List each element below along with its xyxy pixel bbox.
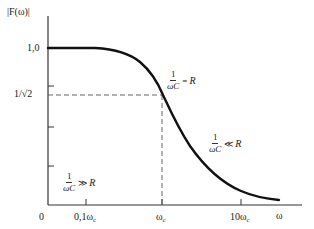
rhs: R	[89, 177, 95, 188]
x-tick-sub: c	[93, 216, 96, 224]
x-tick-label-wc: ωc	[156, 212, 166, 224]
x-tick-text: 0,1ω	[74, 211, 93, 222]
y-axis-label: |F(ω)|	[7, 7, 30, 17]
fraction: 1 ωC	[167, 70, 179, 91]
relation-symbol: =	[182, 76, 187, 86]
x-tick-label-0.1wc: 0,1ωc	[74, 212, 96, 224]
fraction-denominator: ωC	[167, 81, 179, 91]
y-tick-label-1: 1,0	[27, 43, 40, 53]
x-tick-sub: c	[163, 216, 166, 224]
relation-symbol: ≫	[78, 178, 87, 188]
x-tick-text: 10ω	[230, 211, 247, 222]
fraction-denominator: ωC	[63, 183, 75, 193]
rhs: R	[235, 138, 241, 149]
y-axis-label-text: |F(ω)|	[7, 6, 30, 17]
x-tick-label-10wc: 10ωc	[230, 212, 250, 224]
fraction-numerator: 1	[66, 172, 73, 183]
fraction-denominator: ωC	[209, 144, 221, 154]
rhs: R	[189, 75, 195, 86]
relation-symbol: ≪	[224, 139, 233, 149]
fraction: 1 ωC	[209, 133, 221, 154]
annotation-corner: 1 ωC = R	[167, 70, 196, 91]
annotation-low-frequency: 1 ωC ≫ R	[63, 172, 95, 193]
x-tick-label-0: 0	[39, 212, 44, 222]
x-tick-sub: c	[247, 216, 250, 224]
x-axis-label: ω	[276, 211, 283, 221]
fraction-numerator: 1	[170, 70, 177, 81]
fraction: 1 ωC	[63, 172, 75, 193]
x-tick-text: ω	[156, 211, 163, 222]
annotation-high-frequency: 1 ωC ≪ R	[209, 133, 241, 154]
y-tick-label-inv-sqrt2: 1/√2	[14, 89, 32, 99]
frequency-response-plot	[0, 0, 314, 229]
fraction-numerator: 1	[212, 133, 219, 144]
